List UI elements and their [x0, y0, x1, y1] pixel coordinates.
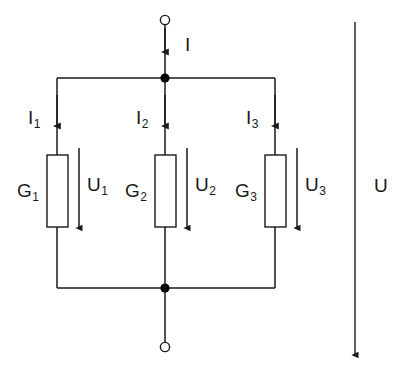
label-voltage-3-symbol: U [305, 174, 319, 195]
label-current-3: I3 [246, 108, 258, 127]
label-voltage-2-subscript: 2 [209, 184, 216, 198]
label-current-1: I1 [28, 108, 40, 127]
conductance-box-1 [47, 155, 68, 227]
label-total-voltage: U [374, 176, 388, 195]
label-current-1-symbol: I [28, 107, 33, 128]
label-conductance-2: G2 [125, 181, 146, 200]
label-conductance-1-subscript: 1 [32, 190, 39, 204]
top-terminal [160, 15, 169, 24]
label-conductance-2-subscript: 2 [140, 190, 147, 204]
label-conductance-3-subscript: 3 [250, 190, 257, 204]
bottom-terminal [160, 342, 169, 351]
label-current-2: I2 [136, 108, 148, 127]
branch-3 [265, 78, 297, 288]
label-current-3-subscript: 3 [252, 117, 259, 131]
branch-2 [155, 78, 187, 288]
label-conductance-1: G1 [17, 181, 38, 200]
label-current-1-subscript: 1 [34, 117, 41, 131]
label-voltage-3: U3 [305, 175, 325, 194]
circuit-diagram: I U I1 G1 U1 I2 G2 U2 I3 G3 U3 [0, 0, 402, 368]
label-voltage-2: U2 [195, 175, 215, 194]
label-conductance-1-symbol: G [17, 180, 32, 201]
conductance-box-2 [155, 155, 176, 227]
label-voltage-2-symbol: U [195, 174, 209, 195]
label-conductance-2-symbol: G [125, 180, 140, 201]
label-current-3-symbol: I [246, 107, 251, 128]
label-conductance-3-symbol: G [235, 180, 250, 201]
label-current-2-symbol: I [136, 107, 141, 128]
label-voltage-3-subscript: 3 [319, 184, 326, 198]
label-voltage-1-symbol: U [87, 174, 101, 195]
branch-1 [47, 78, 79, 288]
label-total-voltage-symbol: U [374, 175, 388, 196]
conductance-box-3 [265, 155, 286, 227]
label-total-current: I [185, 35, 190, 54]
label-conductance-3: G3 [235, 181, 256, 200]
label-current-2-subscript: 2 [142, 117, 149, 131]
label-total-current-symbol: I [185, 34, 190, 55]
label-voltage-1: U1 [87, 175, 107, 194]
label-voltage-1-subscript: 1 [101, 184, 108, 198]
